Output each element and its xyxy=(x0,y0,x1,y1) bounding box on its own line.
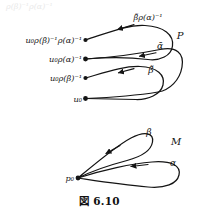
basepoint-dot-u0-rho-beta-inv xyxy=(83,76,87,80)
label-alpha: α xyxy=(170,158,176,167)
figure-caption: 図 6.10 xyxy=(79,193,119,208)
basepoint-dot-u0 xyxy=(83,96,88,101)
figure-drawing-canvas xyxy=(0,0,199,212)
basepoint-dot-u0-rho-beta-inv-rho-alpha-inv xyxy=(83,38,87,42)
upper-basepoint-dots xyxy=(83,38,88,101)
label-u0: u₀ xyxy=(73,94,82,102)
label-beta: β xyxy=(146,127,151,136)
label-p0: p₀ xyxy=(65,174,74,182)
lower-diagram-group xyxy=(76,134,180,188)
space-label-p: P xyxy=(177,31,184,41)
loop-beta xyxy=(78,134,153,178)
label-u0-rho-beta-inv-rho-alpha-inv: u₀ρ(β)⁻¹ρ(α)⁻¹ xyxy=(26,36,82,44)
label-u0-rho-alpha-inv: u₀ρ(α)⁻¹ xyxy=(49,55,82,63)
label-alpha-bar: ᾱ xyxy=(157,41,163,50)
space-label-m: M xyxy=(171,137,181,147)
upper-diagram-group xyxy=(83,25,182,101)
figure-6-10: ρ(β)⁻¹ρ(α)⁻¹ xyxy=(0,0,199,212)
basepoint-dot-p0 xyxy=(76,176,81,181)
label-beta-tilde: β̃ xyxy=(148,65,153,74)
basepoint-dot-u0-rho-alpha-inv xyxy=(83,57,88,62)
label-beta-tilde-rho-alpha-inverse: β̃ρ(α)⁻¹ xyxy=(133,13,162,21)
label-u0-rho-beta-inv: u₀ρ(β)⁻¹ xyxy=(50,74,82,82)
